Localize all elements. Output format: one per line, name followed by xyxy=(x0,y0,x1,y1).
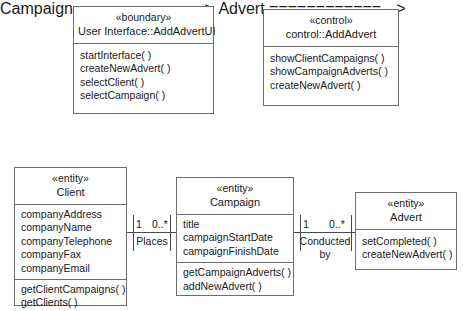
class-operations-addadvert-control: showClientCampaigns( ) showCampaignAdver… xyxy=(264,46,398,96)
class-header-campaign: «entity» Campaign xyxy=(177,178,293,214)
class-header-advert: «entity» Advert xyxy=(356,193,456,229)
operation: showCampaignAdverts( ) xyxy=(270,65,392,78)
operation: setCompleted( ) xyxy=(362,235,450,248)
class-box-client[interactable]: «entity» Client companyAddress companyNa… xyxy=(14,167,127,306)
multiplicity-client-end: 1 xyxy=(136,218,142,230)
operation: startInterface( ) xyxy=(80,49,207,62)
operation: getClients( ) xyxy=(21,296,120,309)
operation: createNewAdvert( ) xyxy=(80,62,207,75)
attribute: title xyxy=(183,218,287,231)
operation: selectClient( ) xyxy=(80,76,207,89)
class-operations-addadvertui: startInterface( ) createNewAdvert( ) sel… xyxy=(74,43,213,107)
operation: createNewAdvert( ) xyxy=(270,79,392,92)
operation: selectCampaign( ) xyxy=(80,89,207,102)
class-box-campaign[interactable]: «entity» Campaign title campaignStartDat… xyxy=(176,177,294,296)
attribute: campaignStartDate xyxy=(183,231,287,244)
class-name: Campaign xyxy=(181,195,289,209)
class-header-client: «entity» Client xyxy=(15,168,126,204)
class-operations-client: getClientCampaigns( ) getClients( ) xyxy=(15,279,126,311)
class-name: User Interface::AddAdvertUI xyxy=(78,24,209,38)
class-box-advert[interactable]: «entity» Advert setCompleted( ) createNe… xyxy=(355,192,457,270)
class-attributes-campaign: title campaignStartDate campaignFinishDa… xyxy=(177,214,293,262)
class-operations-advert: setCompleted( ) createNewAdvert( ) xyxy=(356,229,456,266)
diagram-canvas: «boundary» User Interface::AddAdvertUI s… xyxy=(0,0,466,311)
association-line-client-campaign xyxy=(127,232,176,233)
operation: createNewAdvert( ) xyxy=(362,248,450,261)
class-stereotype: «boundary» xyxy=(78,11,209,24)
multiplicity-campaign-end: 0..* xyxy=(152,218,168,230)
class-attributes-client: companyAddress companyName companyTeleph… xyxy=(15,204,126,279)
attribute: companyAddress xyxy=(21,208,120,221)
class-name: Client xyxy=(19,185,122,199)
attribute: companyName xyxy=(21,221,120,234)
attribute: companyEmail xyxy=(21,262,120,275)
association-line-campaign-advert xyxy=(294,232,355,233)
multiplicity-campaign-right-end: 1 xyxy=(303,218,309,230)
class-stereotype: «control» xyxy=(268,14,394,27)
attribute: companyTelephone xyxy=(21,235,120,248)
attribute: campaignFinishDate xyxy=(183,245,287,258)
operation: getClientCampaigns( ) xyxy=(21,283,120,296)
operation: getCampaignAdverts( ) xyxy=(183,266,287,279)
class-box-addadvertui[interactable]: «boundary» User Interface::AddAdvertUI s… xyxy=(73,6,214,114)
association-label-places: Places xyxy=(129,235,175,248)
multiplicity-advert-end: 0..* xyxy=(329,218,345,230)
class-operations-campaign: getCampaignAdverts( ) addNewAdvert( ) xyxy=(177,262,293,297)
class-stereotype: «entity» xyxy=(181,182,289,195)
class-header-addadvertui: «boundary» User Interface::AddAdvertUI xyxy=(74,7,213,43)
class-header-addadvert-control: «control» control::AddAdvert xyxy=(264,10,398,46)
class-box-addadvert-control[interactable]: «control» control::AddAdvert showClientC… xyxy=(263,9,399,106)
association-label-conducted-by: Conducted by xyxy=(296,235,354,260)
class-stereotype: «entity» xyxy=(19,172,122,185)
operation: addNewAdvert( ) xyxy=(183,280,287,293)
operation: showClientCampaigns( ) xyxy=(270,52,392,65)
class-name: control::AddAdvert xyxy=(268,27,394,41)
attribute: companyFax xyxy=(21,248,120,261)
class-name: Advert xyxy=(360,210,452,224)
class-stereotype: «entity» xyxy=(360,197,452,210)
